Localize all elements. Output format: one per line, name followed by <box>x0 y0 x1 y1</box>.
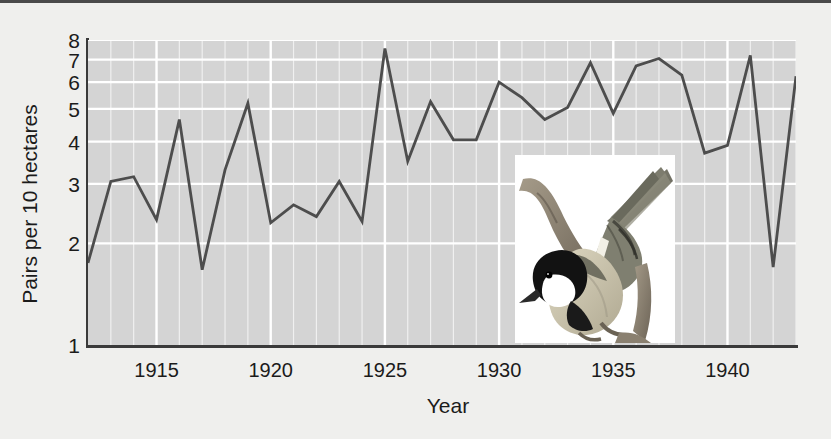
data-line <box>88 40 796 345</box>
x-tick-label: 1935 <box>591 360 636 380</box>
x-tick-label: 1925 <box>363 360 408 380</box>
x-axis-line <box>86 345 798 348</box>
y-axis-title: Pairs per 10 hectares <box>18 44 42 364</box>
great-tit-illustration <box>515 155 675 343</box>
eye <box>546 272 553 279</box>
x-tick-label: 1930 <box>477 360 522 380</box>
x-tick-label: 1920 <box>248 360 293 380</box>
x-axis-title: Year <box>348 394 548 418</box>
great-tit-photo-inset <box>515 155 675 343</box>
chart-figure: 12345678 191519201925193019351940 Pairs … <box>0 0 831 439</box>
plot-area <box>88 40 796 345</box>
x-tick-label: 1915 <box>134 360 179 380</box>
x-tick-label: 1940 <box>705 360 750 380</box>
